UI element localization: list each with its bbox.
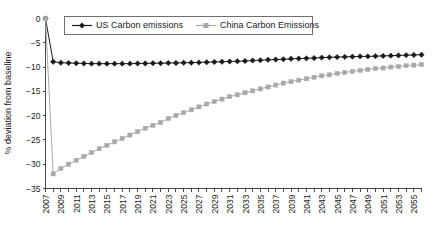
data-point-marker-us	[311, 55, 316, 60]
data-point-marker-us	[258, 58, 263, 63]
x-axis-tick-label: 2047	[348, 194, 358, 213]
x-axis-tick-label: 2027	[194, 194, 204, 213]
data-point-marker-china	[174, 114, 178, 118]
data-point-marker-us	[166, 60, 171, 65]
y-axis-tick-label: 0	[36, 14, 41, 24]
data-point-marker-china	[396, 64, 400, 68]
data-point-marker-china	[59, 166, 63, 170]
data-point-marker-us	[81, 61, 86, 66]
data-point-marker-us	[373, 53, 378, 58]
data-point-marker-china	[312, 75, 316, 79]
data-point-marker-china	[258, 87, 262, 91]
x-axis-tick-label: 2037	[271, 194, 281, 213]
data-point-marker-us	[396, 53, 401, 58]
data-point-marker-china	[151, 123, 155, 127]
data-point-marker-us	[73, 60, 78, 65]
data-point-marker-us	[212, 59, 217, 64]
data-point-marker-china	[220, 97, 224, 101]
data-point-marker-china	[304, 77, 308, 81]
data-point-marker-us	[58, 60, 63, 65]
y-axis-tick-label: −35	[26, 184, 41, 194]
chart-legend: US Carbon emissionsChina Carbon Emission…	[65, 17, 320, 35]
y-axis-tick-label: −25	[26, 135, 41, 145]
data-point-marker-china	[373, 66, 377, 70]
data-point-marker-us	[127, 61, 132, 66]
y-axis-tick-label: −30	[26, 159, 41, 169]
figure-container: 0−5−10−15−20−25−30−35 200720092011201320…	[0, 0, 439, 232]
data-point-marker-china	[404, 64, 408, 68]
y-axis-tick-label: −15	[26, 86, 41, 96]
data-point-marker-china	[112, 140, 116, 144]
data-point-marker-china	[182, 111, 186, 115]
data-point-marker-us	[120, 61, 125, 66]
data-point-marker-china	[82, 154, 86, 158]
data-point-marker-us	[334, 54, 339, 59]
data-point-marker-china	[212, 99, 216, 103]
data-point-marker-china	[297, 78, 301, 82]
data-point-marker-us	[89, 61, 94, 66]
data-point-marker-china	[419, 63, 423, 67]
data-point-marker-us	[104, 61, 109, 66]
y-axis: 0−5−10−15−20−25−30−35	[26, 14, 45, 194]
data-point-marker-china	[135, 130, 139, 134]
x-axis-tick-label: 2031	[225, 194, 235, 213]
data-point-marker-us	[204, 60, 209, 65]
x-axis-tick-label: 2023	[164, 194, 174, 213]
data-point-marker-us	[350, 54, 355, 59]
data-point-marker-us	[112, 61, 117, 66]
data-point-marker-china	[166, 116, 170, 120]
x-axis-tick-label: 2025	[179, 194, 189, 213]
data-point-marker-us	[296, 56, 301, 61]
data-point-marker-china	[289, 80, 293, 84]
data-point-marker-us	[196, 60, 201, 65]
x-axis-tick-label: 2009	[56, 194, 66, 213]
x-axis-tick-label: 2029	[210, 194, 220, 213]
x-axis-tick-label: 2039	[287, 194, 297, 213]
data-point-marker-china	[228, 95, 232, 99]
data-point-marker-us	[342, 54, 347, 59]
data-point-marker-china	[281, 81, 285, 85]
data-point-marker-china	[327, 73, 331, 77]
x-axis-tick-label: 2011	[72, 194, 82, 213]
data-point-marker-china	[389, 65, 393, 69]
data-point-marker-us	[189, 60, 194, 65]
data-point-marker-china	[343, 70, 347, 74]
x-axis: 2007200920112013201520172019202120232025…	[41, 189, 422, 214]
x-axis-tick-label: 2049	[363, 194, 373, 213]
data-point-marker-us	[411, 52, 416, 57]
data-point-marker-china	[89, 150, 93, 154]
legend-label-china: China Carbon Emissions	[220, 20, 320, 30]
legend-label-us: US Carbon emissions	[96, 20, 184, 30]
data-point-marker-china	[335, 71, 339, 75]
data-point-marker-us	[380, 53, 385, 58]
data-point-marker-us	[281, 57, 286, 62]
data-point-marker-us	[242, 58, 247, 63]
data-point-marker-us	[327, 55, 332, 60]
data-point-marker-china	[120, 136, 124, 140]
series-line-china	[46, 19, 422, 174]
data-point-marker-us	[227, 59, 232, 64]
x-axis-tick-label: 2043	[317, 194, 327, 213]
data-point-marker-us	[319, 55, 324, 60]
x-axis-tick-label: 2017	[118, 194, 128, 213]
data-point-marker-china	[51, 172, 55, 176]
data-point-marker-china	[128, 133, 132, 137]
data-point-marker-us	[181, 60, 186, 65]
data-point-marker-china	[43, 16, 47, 20]
data-point-marker-china	[143, 126, 147, 130]
data-point-marker-china	[66, 162, 70, 166]
data-point-marker-china	[350, 69, 354, 73]
x-axis-tick-label: 2053	[394, 194, 404, 213]
data-point-marker-us	[273, 57, 278, 62]
data-point-marker-us	[173, 60, 178, 65]
x-axis-tick-label: 2013	[87, 194, 97, 213]
data-point-marker-us	[235, 59, 240, 64]
data-point-marker-china	[105, 143, 109, 147]
data-point-marker-china	[251, 89, 255, 93]
data-point-marker-china	[197, 105, 201, 109]
x-axis-tick-label: 2033	[241, 194, 251, 213]
data-point-marker-us	[288, 56, 293, 61]
x-axis-tick-label: 2021	[148, 194, 158, 213]
data-point-marker-us	[150, 60, 155, 65]
data-point-marker-china	[159, 120, 163, 124]
